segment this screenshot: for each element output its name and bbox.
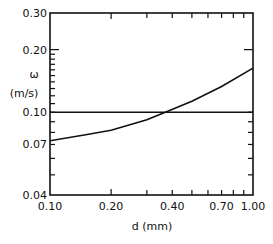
y-axis-unit: (m/s) [10, 87, 39, 100]
x-tick-label: 0.70 [209, 200, 234, 213]
y-tick-label: 0.07 [23, 138, 48, 151]
chart: 0.100.200.400.701.000.300.200.100.070.04… [0, 0, 273, 244]
x-tick-label: 0.20 [99, 200, 124, 213]
y-tick-label: 0.10 [23, 106, 48, 119]
x-tick-label: 1.00 [241, 200, 266, 213]
plot-frame [50, 13, 253, 195]
data-curve [50, 68, 253, 141]
x-axis-label: d (mm) [132, 220, 173, 233]
y-tick-label: 0.04 [23, 189, 48, 202]
y-axis-symbol: ω [29, 68, 38, 81]
y-tick-label: 0.30 [23, 7, 48, 20]
plot-area: 0.100.200.400.701.000.300.200.100.070.04 [23, 7, 266, 213]
x-tick-label: 0.40 [160, 200, 185, 213]
y-tick-label: 0.20 [23, 44, 48, 57]
